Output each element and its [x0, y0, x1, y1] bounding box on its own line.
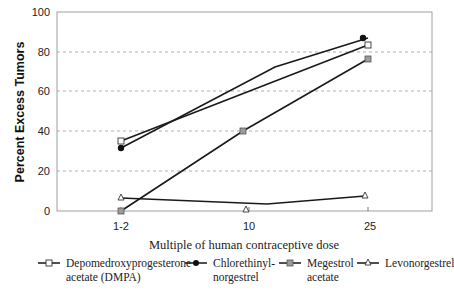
legend-label-megestrol: Megestrol acetate	[307, 256, 354, 284]
x-axis-label: Multiple of human contraceptive dose	[149, 238, 340, 252]
series-dmpa-line	[121, 45, 368, 141]
series-levonorgestrel-line	[121, 196, 365, 204]
legend-label-chlorethinyl: Chlorethinyl- norgestrel	[213, 256, 275, 284]
grey-square-marker-icon	[277, 256, 303, 270]
y-tick-labels: 0 20 40 60 80 100	[32, 6, 50, 217]
series-megestrol-line	[121, 59, 368, 211]
legend-item-chlorethinyl: Chlorethinyl- norgestrel	[183, 256, 275, 284]
x-tick-10: 10	[243, 220, 255, 232]
x-tick-1-2: 1-2	[113, 220, 129, 232]
y-tick-80: 80	[38, 46, 50, 58]
x-tick-labels: 1-2 10 25	[113, 220, 376, 232]
legend-item-megestrol: Megestrol acetate	[277, 256, 354, 284]
filled-circle-marker-icon	[183, 256, 209, 270]
y-tick-0: 0	[44, 205, 50, 217]
y-tick-20: 20	[38, 165, 50, 177]
y-tick-100: 100	[32, 6, 50, 18]
open-triangle-marker-icon	[355, 256, 381, 270]
y-axis-label: Percent Excess Tumors	[13, 42, 27, 183]
plot-area	[57, 12, 432, 211]
gridlines	[57, 52, 432, 171]
x-tick-25: 25	[364, 220, 376, 232]
legend: Depomedroxyprogesterone acetate (DMPA) C…	[0, 256, 437, 296]
open-square-marker-icon	[36, 256, 62, 270]
y-tick-60: 60	[38, 85, 50, 97]
series-levonorgestrel-markers	[118, 192, 368, 212]
y-tick-40: 40	[38, 125, 50, 137]
legend-item-dmpa: Depomedroxyprogesterone acetate (DMPA)	[36, 256, 191, 284]
legend-label-dmpa: Depomedroxyprogesterone acetate (DMPA)	[66, 256, 191, 284]
legend-label-levonorgestrel: Levonorgestrel	[385, 256, 454, 270]
legend-item-levonorgestrel: Levonorgestrel	[355, 256, 454, 270]
